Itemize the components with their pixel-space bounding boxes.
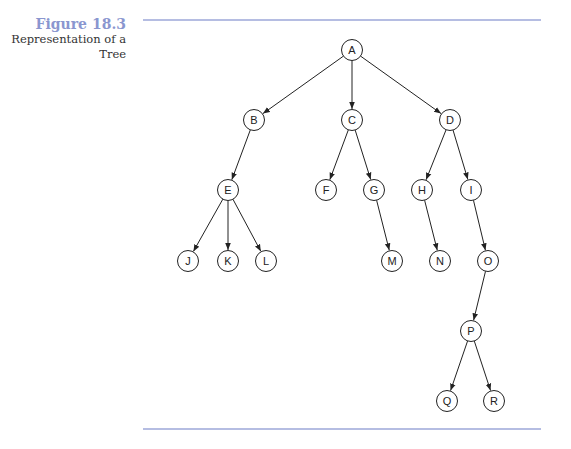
- svg-text:A: A: [348, 44, 356, 56]
- svg-text:N: N: [436, 255, 444, 267]
- tree-diagram: ABCDEFGHIJKLMNOPQR: [0, 0, 571, 449]
- edge-D-H: [426, 130, 446, 180]
- svg-text:J: J: [185, 255, 191, 267]
- tree-nodes: ABCDEFGHIJKLMNOPQR: [178, 40, 505, 412]
- svg-text:F: F: [323, 184, 330, 196]
- tree-node-R: R: [484, 391, 505, 412]
- edge-I-O: [473, 200, 485, 250]
- edge-C-G: [355, 130, 371, 179]
- tree-node-N: N: [430, 251, 451, 272]
- tree-node-H: H: [412, 180, 433, 201]
- svg-text:K: K: [224, 255, 232, 267]
- tree-node-B: B: [244, 110, 265, 131]
- tree-node-G: G: [364, 180, 385, 201]
- tree-node-O: O: [478, 251, 499, 272]
- tree-node-C: C: [342, 110, 363, 131]
- svg-text:H: H: [418, 184, 426, 196]
- edge-G-M: [377, 200, 390, 250]
- edge-O-P: [474, 271, 486, 320]
- edge-C-F: [330, 130, 349, 180]
- tree-node-J: J: [178, 251, 199, 272]
- svg-text:Q: Q: [443, 395, 452, 407]
- tree-edges: [193, 56, 490, 390]
- svg-text:G: G: [370, 184, 379, 196]
- tree-node-F: F: [316, 180, 337, 201]
- edge-E-J: [193, 199, 222, 251]
- tree-node-M: M: [382, 251, 403, 272]
- edge-A-D: [361, 56, 442, 114]
- tree-node-D: D: [440, 110, 461, 131]
- svg-text:O: O: [484, 255, 493, 267]
- edge-A-B: [263, 56, 344, 114]
- svg-text:R: R: [490, 395, 498, 407]
- tree-node-E: E: [218, 180, 239, 201]
- edge-B-E: [232, 130, 251, 180]
- tree-node-L: L: [256, 251, 277, 272]
- svg-text:B: B: [250, 114, 257, 126]
- tree-node-Q: Q: [437, 391, 458, 412]
- edge-E-L: [233, 199, 261, 251]
- edge-P-R: [474, 341, 490, 391]
- tree-node-A: A: [342, 40, 363, 61]
- svg-text:I: I: [469, 184, 472, 196]
- edge-P-Q: [451, 341, 468, 391]
- edge-D-I: [453, 130, 468, 179]
- edge-H-N: [425, 200, 438, 250]
- svg-text:M: M: [387, 255, 396, 267]
- svg-text:L: L: [263, 255, 269, 267]
- svg-text:E: E: [224, 184, 231, 196]
- tree-node-K: K: [218, 251, 239, 272]
- tree-node-P: P: [461, 321, 482, 342]
- svg-text:P: P: [467, 325, 474, 337]
- tree-node-I: I: [461, 180, 482, 201]
- svg-text:D: D: [446, 114, 454, 126]
- svg-text:C: C: [348, 114, 356, 126]
